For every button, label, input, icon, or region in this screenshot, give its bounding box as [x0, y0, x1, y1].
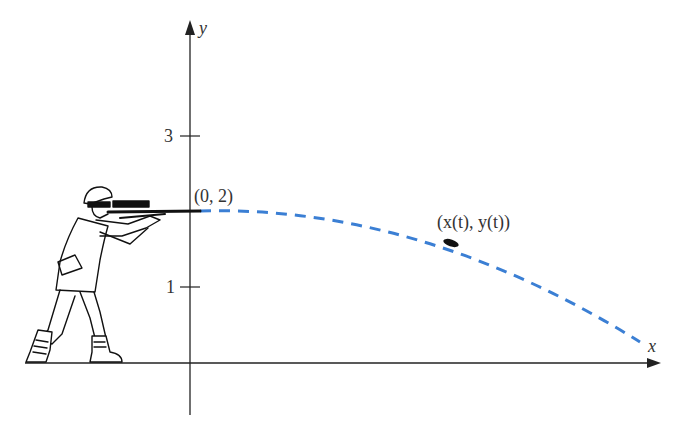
start-point-label: (0, 2) — [194, 186, 233, 207]
y-axis — [180, 20, 200, 415]
rifleman-figure — [26, 187, 200, 362]
tick-label-1: 1 — [166, 277, 175, 297]
trajectory-curve — [200, 211, 640, 342]
tick-label-3: 3 — [164, 126, 173, 146]
x-axis-label: x — [647, 336, 656, 356]
moving-point-label: (x(t), y(t)) — [437, 212, 510, 233]
y-axis-label: y — [197, 18, 207, 38]
trajectory-diagram: y x 3 1 (0, 2) (x(t), y(t)) — [0, 0, 684, 441]
